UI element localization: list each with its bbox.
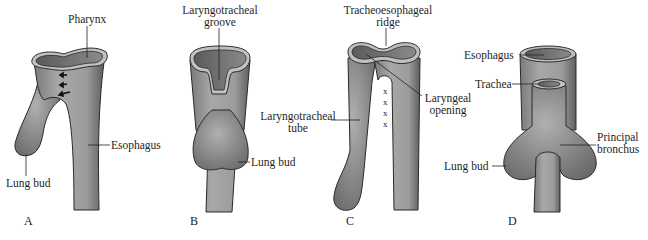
- label-line: Principal: [597, 131, 639, 143]
- label-line: tube: [258, 122, 338, 134]
- label-line: Laryngeal: [418, 92, 478, 104]
- label-line: Laryngotracheal: [258, 110, 338, 122]
- label-laryngotracheal-groove: Laryngotracheal groove: [176, 4, 264, 28]
- panel-letter-b: B: [190, 214, 198, 229]
- panel-c-artwork: x x x x: [331, 28, 422, 210]
- x-mark: x: [383, 86, 388, 96]
- label-line: Tracheoesophageal: [338, 4, 438, 16]
- label-lung-bud-d: Lung bud: [444, 160, 488, 172]
- x-mark: x: [383, 97, 388, 107]
- label-line: groove: [176, 16, 264, 28]
- x-mark: x: [383, 119, 388, 129]
- panel-letter-a: A: [24, 214, 33, 229]
- panel-b-artwork: [190, 28, 250, 212]
- label-laryngotracheal-tube: Laryngotracheal tube: [258, 110, 338, 134]
- label-principal-bronchus: Principal bronchus: [597, 131, 639, 155]
- label-esophagus-d: Esophagus: [464, 49, 514, 61]
- panel-letter-c: C: [346, 214, 354, 229]
- label-line: opening: [418, 104, 478, 116]
- label-lung-bud-a: Lung bud: [6, 177, 50, 189]
- label-lung-bud-b: Lung bud: [251, 156, 295, 168]
- x-mark: x: [383, 108, 388, 118]
- label-trachea: Trachea: [475, 78, 512, 90]
- label-laryngeal-opening: Laryngeal opening: [418, 92, 478, 116]
- panel-letter-d: D: [508, 214, 517, 229]
- panel-d-artwork: [492, 46, 596, 212]
- label-esophagus-a: Esophagus: [111, 139, 161, 151]
- x-marks: x x x x: [383, 86, 388, 129]
- label-pharynx: Pharynx: [68, 13, 106, 25]
- label-tracheoesophageal-ridge: Tracheoesophageal ridge: [338, 4, 438, 28]
- label-line: Laryngotracheal: [176, 4, 264, 16]
- label-line: ridge: [338, 16, 438, 28]
- label-line: bronchus: [597, 143, 639, 155]
